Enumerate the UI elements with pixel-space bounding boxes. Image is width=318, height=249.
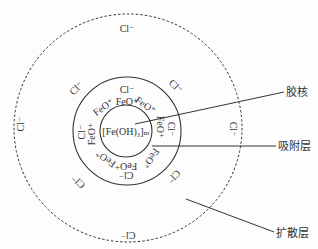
inner-counter-ion: Cl⁻	[76, 125, 87, 140]
diffuse-counter-ion: Cl⁻	[120, 23, 135, 34]
inner-counter-ion: Cl⁻	[120, 84, 135, 95]
inner-counter-ion: Cl⁻	[166, 122, 177, 137]
adsorbed-ion: FeO⁺	[91, 96, 116, 118]
label-core: 胶核	[286, 85, 308, 99]
diffuse-counter-ion: Cl⁻	[15, 117, 26, 132]
diffuse-counter-ion: Cl⁻	[228, 122, 239, 137]
colloid-diagram: FeO⁺FeO⁺FeO⁺FeO⁺FeO⁺FeO⁺FeO⁺FeO⁺Cl⁻Cl⁻Cl…	[0, 0, 318, 249]
adsorbed-ion: FeO⁺	[155, 116, 166, 139]
diffuse-counter-ion: Cl⁻	[165, 168, 183, 186]
label-adsorption-layer: 吸附层	[278, 139, 311, 153]
adsorbed-ion: FeO⁺	[86, 123, 97, 146]
diffuse-counter-ion: Cl⁻	[121, 230, 136, 241]
diffuse-counter-ion: Cl⁻	[67, 79, 85, 97]
diagram-svg: FeO⁺FeO⁺FeO⁺FeO⁺FeO⁺FeO⁺FeO⁺FeO⁺Cl⁻Cl⁻Cl…	[0, 0, 318, 249]
adsorbed-ion: FeO⁺	[93, 148, 118, 170]
inner-counter-ion: Cl⁻	[119, 170, 134, 181]
diffusion-leader	[186, 199, 274, 232]
core-formula: [Fe(OH)₃]ₘ	[102, 126, 149, 138]
label-diffusion-layer: 扩散层	[276, 226, 309, 240]
diffuse-counter-ion: Cl⁻	[167, 77, 185, 95]
adsorbed-ion: FeO⁺	[133, 94, 158, 116]
diffuse-counter-ion: Cl⁻	[69, 173, 87, 191]
